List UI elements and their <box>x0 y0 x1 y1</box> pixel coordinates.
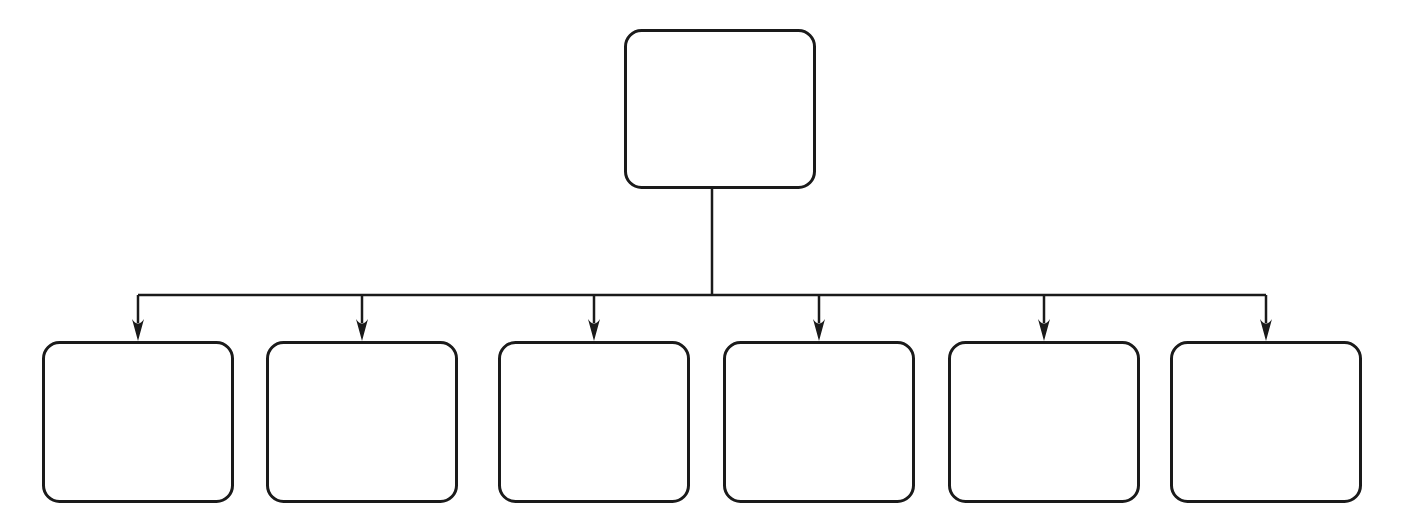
root-node[interactable] <box>626 31 815 188</box>
child-node-5-shape[interactable] <box>950 343 1139 502</box>
diagram-canvas <box>0 0 1404 524</box>
child-node-4[interactable] <box>725 343 914 502</box>
root-node-shape[interactable] <box>626 31 815 188</box>
diagram-svg <box>0 0 1404 524</box>
child-node-1-shape[interactable] <box>44 343 233 502</box>
child-node-3-shape[interactable] <box>500 343 689 502</box>
child-node-3[interactable] <box>500 343 689 502</box>
child-node-5[interactable] <box>950 343 1139 502</box>
connector-layer <box>132 189 1272 341</box>
child-node-6[interactable] <box>1172 343 1361 502</box>
child-node-6-shape[interactable] <box>1172 343 1361 502</box>
child-node-4-shape[interactable] <box>725 343 914 502</box>
node-layer <box>44 31 1361 502</box>
child-node-2-shape[interactable] <box>268 343 457 502</box>
child-node-1[interactable] <box>44 343 233 502</box>
child-node-2[interactable] <box>268 343 457 502</box>
